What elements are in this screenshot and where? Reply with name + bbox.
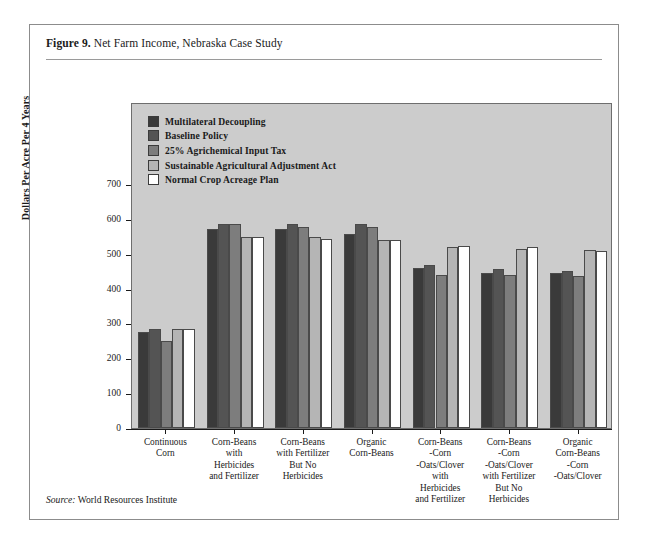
bar — [493, 269, 504, 428]
bar — [378, 240, 389, 428]
bar — [172, 329, 183, 428]
bar — [344, 234, 355, 429]
source-text: World Resources Institute — [78, 494, 177, 505]
y-tick-label: 700 — [87, 180, 121, 190]
bar — [390, 240, 401, 428]
bar — [458, 246, 469, 428]
bar-group — [544, 104, 613, 428]
y-axis-title: Dollars Per Acre Per 4 Years — [20, 48, 31, 268]
bars-layer — [132, 104, 611, 428]
bar — [550, 273, 561, 428]
y-tick-label: 400 — [87, 285, 121, 295]
bar-group — [338, 104, 407, 428]
caption-divider — [46, 59, 602, 60]
figure-title: Net Farm Income, Nebraska Case Study — [94, 37, 283, 49]
bar — [367, 227, 378, 428]
bar — [275, 229, 286, 428]
bar — [252, 237, 263, 428]
source-label: Source: — [46, 494, 75, 505]
bar — [516, 249, 527, 429]
bar — [321, 239, 332, 428]
bar — [161, 341, 172, 428]
figure-label: Figure 9. — [46, 37, 91, 49]
bar — [207, 229, 218, 428]
bar — [149, 329, 160, 428]
x-tick-mark — [165, 429, 166, 434]
bar — [562, 271, 573, 428]
plot-area: Multilateral DecouplingBaseline Policy25… — [131, 103, 612, 429]
bar — [355, 224, 366, 428]
bar — [481, 273, 492, 428]
x-tick-mark — [303, 429, 304, 434]
bar — [584, 250, 595, 428]
bar — [241, 237, 252, 428]
x-tick-mark — [440, 429, 441, 434]
bar — [298, 227, 309, 428]
x-tick-mark — [578, 429, 579, 434]
y-tick-label: 300 — [87, 319, 121, 329]
bar — [287, 224, 298, 428]
y-tick-label: 600 — [87, 215, 121, 225]
bar-group — [201, 104, 270, 428]
y-tick-label: 0 — [87, 424, 121, 434]
source-note: Source: World Resources Institute — [46, 494, 177, 505]
bar — [309, 237, 320, 428]
x-tick-mark — [234, 429, 235, 434]
x-tick-mark — [372, 429, 373, 434]
bar — [413, 268, 424, 428]
bar — [424, 265, 435, 428]
figure-caption: Figure 9. Net Farm Income, Nebraska Case… — [46, 37, 602, 49]
bar — [447, 247, 458, 428]
bar — [436, 275, 447, 428]
bar-group — [476, 104, 545, 428]
bar-group — [407, 104, 476, 428]
bar-group — [269, 104, 338, 428]
bar — [138, 332, 149, 428]
bar — [504, 275, 515, 428]
bar — [596, 251, 607, 428]
y-tick-label: 100 — [87, 389, 121, 399]
x-category-label: OrganicCorn-Beans-Corn-Oats/Clover — [530, 437, 626, 483]
bar — [573, 276, 584, 428]
x-tick-mark — [509, 429, 510, 434]
bar — [229, 224, 240, 428]
bar — [218, 224, 229, 428]
figure-card: Figure 9. Net Farm Income, Nebraska Case… — [29, 24, 619, 520]
bar — [527, 247, 538, 428]
bar — [183, 329, 194, 428]
bar-group — [132, 104, 201, 428]
y-tick-label: 200 — [87, 354, 121, 364]
y-tick-label: 500 — [87, 250, 121, 260]
